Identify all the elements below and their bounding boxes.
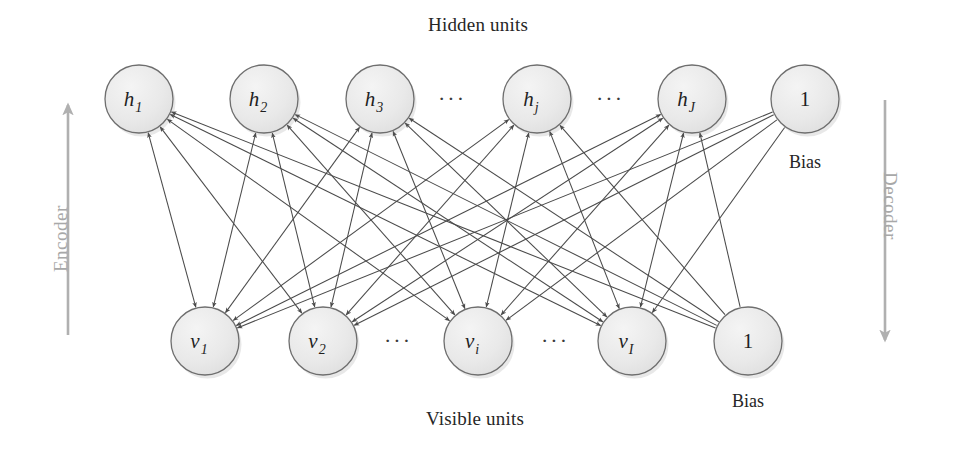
ellipsis-visible-1: ···: [541, 328, 569, 353]
node-label-h_bias: 1: [800, 87, 811, 111]
node-group: h1h2h3hjhJ1v1v2vivI1: [105, 65, 842, 379]
node-h_bias[interactable]: 1: [771, 65, 842, 137]
node-label-v_bias: 1: [743, 329, 754, 353]
decoder-label: Decoder: [879, 172, 901, 240]
edge-v1-h2: [213, 133, 255, 307]
rbm-diagram: h1h2h3hjhJ1v1v2vivI1 ············ Hidden…: [0, 0, 955, 451]
visible-units-caption: Visible units: [426, 408, 524, 430]
edge-vI-hj: [550, 132, 619, 309]
edge-vi-h3: [393, 131, 465, 308]
ellipsis-visible-0: ···: [384, 328, 412, 353]
edge-v1-h3: [226, 127, 360, 312]
node-v2[interactable]: v2: [289, 307, 360, 379]
ellipsis-hidden-1: ···: [596, 86, 624, 111]
hidden-bias-caption: Bias: [789, 152, 821, 173]
edge-vi-hj: [486, 133, 528, 307]
network-graph: h1h2h3hjhJ1v1v2vivI1 ············: [0, 0, 955, 451]
edge-vI-hJ: [640, 133, 683, 307]
node-h1[interactable]: h1: [105, 65, 176, 137]
node-v1[interactable]: v1: [171, 307, 242, 379]
node-h2[interactable]: h2: [230, 65, 301, 137]
hidden-units-caption: Hidden units: [428, 14, 528, 36]
edge-v_bias-h2: [295, 115, 716, 326]
node-vI[interactable]: vI: [598, 307, 669, 379]
node-vi[interactable]: vi: [444, 307, 515, 379]
node-h3[interactable]: h3: [346, 65, 417, 137]
visible-bias-caption: Bias: [732, 391, 764, 412]
ellipsis-hidden-0: ···: [438, 86, 466, 111]
edge-v_bias-hJ: [700, 133, 740, 307]
edge-group: [148, 112, 784, 328]
edge-v1-h1: [148, 133, 196, 307]
edge-v2-h3: [331, 133, 372, 307]
edge-v_bias-h1: [172, 112, 716, 328]
edge-v_bias-h3: [409, 118, 719, 322]
edge-h_bias-vI: [652, 127, 784, 312]
encoder-label: Encoder: [50, 205, 72, 272]
node-v_bias[interactable]: 1: [714, 307, 785, 379]
